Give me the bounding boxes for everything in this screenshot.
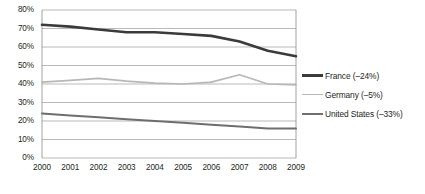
series-line <box>42 25 296 56</box>
plot-area <box>42 10 296 158</box>
x-tick-label: 2005 <box>174 163 192 172</box>
series-lines <box>42 25 296 129</box>
x-tick-label: 2007 <box>231 163 249 172</box>
y-tick-label: 30% <box>18 98 34 106</box>
x-tick-label: 2009 <box>287 163 305 172</box>
y-tick-label: 0% <box>22 154 34 162</box>
chart-legend: France (–24%)Germany (–5%)United States … <box>302 66 424 123</box>
y-tick-label: 60% <box>18 43 34 51</box>
x-tick-label: 2000 <box>33 163 51 172</box>
x-axis: 2000200120022003200420052006200720082009 <box>42 163 296 181</box>
y-tick-label: 20% <box>18 117 34 125</box>
x-tick-label: 2001 <box>61 163 79 172</box>
series-line <box>42 75 296 85</box>
x-tick-label: 2006 <box>202 163 220 172</box>
y-tick-label: 40% <box>18 80 34 88</box>
y-tick-label: 50% <box>18 61 34 69</box>
legend-item[interactable]: Germany (–5%) <box>302 85 424 104</box>
legend-label: United States (–33%) <box>325 109 403 119</box>
x-tick-label: 2008 <box>259 163 277 172</box>
legend-item[interactable]: United States (–33%) <box>302 104 424 123</box>
x-tick-label: 2003 <box>118 163 136 172</box>
x-tick-label: 2002 <box>90 163 108 172</box>
legend-swatch-icon <box>302 74 323 77</box>
legend-label: Germany (–5%) <box>325 90 383 100</box>
y-tick-label: 10% <box>18 135 34 143</box>
y-tick-label: 70% <box>18 24 34 32</box>
line-chart: 0%10%20%30%40%50%60%70%80% 2000200120022… <box>0 0 425 194</box>
legend-label: France (–24%) <box>325 71 379 81</box>
x-tick-label: 2004 <box>146 163 164 172</box>
y-tick-label: 80% <box>18 6 34 14</box>
plot-svg <box>42 10 296 158</box>
legend-item[interactable]: France (–24%) <box>302 66 424 85</box>
legend-swatch-icon <box>302 113 323 115</box>
legend-swatch-icon <box>302 94 323 96</box>
